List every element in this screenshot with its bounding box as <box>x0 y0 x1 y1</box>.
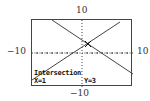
x-readout: X=1 <box>34 78 46 85</box>
ymin-label: −10 <box>70 89 89 98</box>
xmin-label: −10 <box>7 47 26 56</box>
falling-line <box>52 20 133 74</box>
mode-label: Intersection <box>34 70 81 77</box>
xmax-label: 10 <box>137 47 148 56</box>
y-readout: Y=3 <box>84 78 96 85</box>
graph-screen[interactable]: Intersection X=1 Y=3 <box>31 19 132 86</box>
ymax-label: 10 <box>76 6 87 15</box>
